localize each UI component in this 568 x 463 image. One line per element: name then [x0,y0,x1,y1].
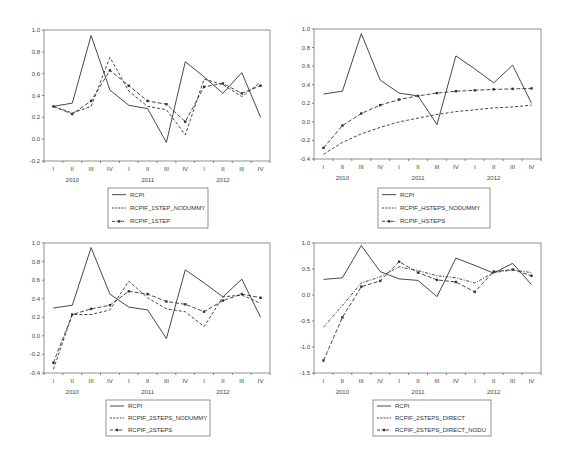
y-tick-label: -1.5 [300,370,311,376]
data-marker [493,270,495,272]
legend-label: RCPIF_2STEPS [128,427,172,433]
data-marker [259,84,261,86]
chart-panel-bottom-left: -0.4-0.20.00.20.40.60.81.0IIIIIIIVIIIIII… [30,240,270,436]
x-tick-label: III [164,166,169,172]
y-tick-label: 0.0 [32,333,41,339]
y-tick-label: 1.0 [302,26,311,32]
y-tick-label: -0.2 [30,351,41,357]
x-tick-label: III [89,166,94,172]
x-tick-label: I [398,164,400,170]
data-marker [341,124,343,126]
x-tick-label: I [128,166,130,172]
x-year-label: 2012 [216,177,230,183]
y-tick-label: -0.4 [300,156,311,162]
data-marker [128,290,130,292]
y-tick-label: 0.6 [32,277,41,283]
x-tick-label: III [434,378,439,384]
y-tick-label: 1.0 [32,240,41,246]
data-marker [203,311,205,313]
x-year-label: 2011 [141,389,155,395]
x-tick-label: I [474,164,476,170]
x-tick-label: I [53,166,55,172]
legend-label: RCPI [130,192,145,198]
legend-label: RCPIF_2STEPS_DIRECT_NODU [395,427,486,433]
y-tick-label: 0.6 [302,63,311,69]
y-tick-label: 0.8 [302,45,311,51]
legend-label: RCPI [128,403,143,409]
legend-marker [116,429,118,431]
x-tick-label: IV [107,378,113,384]
x-tick-label: I [398,378,400,384]
plot-frame [314,243,541,373]
x-year-label: 2011 [412,175,426,181]
y-tick-label: -0.2 [300,137,311,143]
y-tick-label: -0.2 [30,158,41,164]
legend-label: RCPIF_2STEPS_DIRECT [395,415,465,421]
x-tick-label: III [359,164,364,170]
data-marker [52,362,54,364]
y-tick-label: -1.0 [300,344,311,350]
legend-label: RCPI [400,192,415,198]
x-tick-label: II [416,164,420,170]
x-tick-label: I [203,166,205,172]
chart-panel-top-left: -0.20.00.20.40.60.81.0IIIIIIIVIIIIIIIVII… [30,27,270,228]
legend-label: RCPI [395,403,410,409]
y-tick-label: 0.4 [302,82,311,88]
data-marker [184,121,186,123]
y-tick-label: 0.2 [32,314,41,320]
data-marker [511,88,513,90]
y-tick-label: 0.4 [32,296,41,302]
plot-frame [314,29,541,159]
chart-panel-bottom-right: -1.5-1.0-0.50.00.51.0IIIIIIIVIIIIIIIVIII… [300,240,541,436]
data-marker [474,89,476,91]
data-marker [71,313,73,315]
x-tick-label: III [239,378,244,384]
legend-label: RCPIF_HSTEPS_NODUMMY [400,205,480,211]
legend-marker [388,220,390,222]
data-marker [455,90,457,92]
x-tick-label: IV [529,378,535,384]
data-marker [436,92,438,94]
data-marker [128,84,130,86]
data-marker [146,293,148,295]
legend-label: RCPIF_2STEPS_NODUMMY [128,415,207,421]
data-marker [436,279,438,281]
x-year-label: 2011 [141,177,155,183]
x-tick-label: II [416,378,420,384]
y-tick-label: 0.2 [32,114,41,120]
data-marker [165,300,167,302]
x-tick-label: I [203,378,205,384]
figure-canvas: -0.20.00.20.40.60.81.0IIIIIIIVIIIIIIIVII… [0,0,568,463]
y-tick-label: -0.4 [30,370,41,376]
y-tick-label: 0.8 [32,49,41,55]
y-tick-label: 0.5 [302,266,311,272]
x-year-label: 2012 [216,389,230,395]
data-marker [109,69,111,71]
x-tick-label: I [474,378,476,384]
x-year-label: 2012 [487,175,501,181]
x-tick-label: IV [377,164,383,170]
y-tick-label: 0.2 [302,100,311,106]
y-tick-label: 0.8 [32,259,41,265]
x-tick-label: IV [453,164,459,170]
x-year-label: 2010 [66,389,80,395]
y-tick-label: 1.0 [302,240,311,246]
data-marker [455,281,457,283]
data-marker [322,359,324,361]
data-marker [90,100,92,102]
x-tick-label: II [146,378,150,384]
x-tick-label: IV [182,378,188,384]
data-marker [530,275,532,277]
legend-label: RCPIF_1STEP_NODUMMY [130,205,205,211]
x-tick-label: IV [377,378,383,384]
x-tick-label: III [359,378,364,384]
x-tick-label: II [146,166,150,172]
x-tick-label: III [164,378,169,384]
x-tick-label: I [323,378,325,384]
data-marker [184,303,186,305]
data-marker [360,112,362,114]
x-tick-label: I [53,378,55,384]
x-year-label: 2012 [487,389,501,395]
data-marker [511,268,513,270]
data-marker [71,113,73,115]
